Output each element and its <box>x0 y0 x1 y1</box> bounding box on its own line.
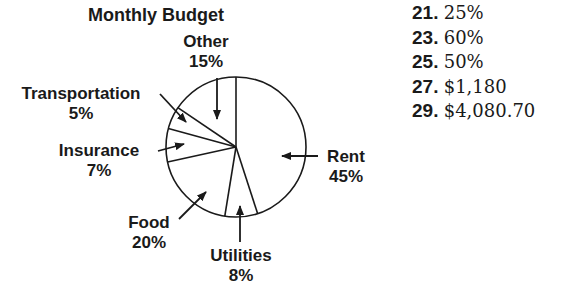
label-food: Food 20% <box>118 213 180 253</box>
label-other: Other 15% <box>176 32 236 72</box>
answer-item: 29. $4,080.70 <box>412 99 535 124</box>
label-insurance: Insurance 7% <box>44 141 154 181</box>
answer-item: 27. $1,180 <box>412 75 535 100</box>
label-utilities: Utilities 8% <box>196 246 286 286</box>
answer-item: 23. 60% <box>412 26 535 51</box>
answer-item: 21. 25% <box>412 1 535 26</box>
label-transportation: Transportation 5% <box>6 84 156 124</box>
answer-item: 25. 50% <box>412 50 535 75</box>
label-rent: Rent 45% <box>318 147 374 187</box>
answer-list: 21. 25% 23. 60% 25. 50% 27. $1,180 29. $… <box>412 1 535 124</box>
